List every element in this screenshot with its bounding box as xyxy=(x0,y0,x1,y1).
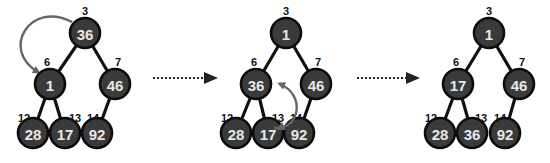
step-arrow-1 xyxy=(153,72,218,84)
heap-node: 46 xyxy=(301,69,331,99)
heap-node: 1 xyxy=(271,18,301,48)
index-label: 6 xyxy=(453,56,459,68)
heap-tree-3: 3 6 7 12 13 14 1 17 46 28 36 92 xyxy=(425,5,534,148)
arrow-right-icon xyxy=(406,72,420,84)
svg-text:1: 1 xyxy=(485,26,493,43)
heap-node: 28 xyxy=(18,118,48,148)
index-label: 3 xyxy=(486,5,492,17)
heap-node: 92 xyxy=(490,118,520,148)
heap-node: 28 xyxy=(425,118,455,148)
heap-node: 17 xyxy=(443,69,473,99)
index-label: 3 xyxy=(82,5,88,17)
heap-tree-1: 3 6 7 12 13 14 36 1 46 28 17 92 xyxy=(18,5,130,148)
svg-text:46: 46 xyxy=(511,77,528,94)
index-label: 3 xyxy=(283,5,289,17)
svg-text:1: 1 xyxy=(282,26,290,43)
svg-text:36: 36 xyxy=(77,26,94,43)
svg-text:28: 28 xyxy=(432,126,449,143)
arrow-right-icon xyxy=(204,72,218,84)
svg-text:46: 46 xyxy=(107,77,124,94)
svg-text:92: 92 xyxy=(291,126,308,143)
heap-node: 28 xyxy=(221,118,251,148)
svg-text:1: 1 xyxy=(46,77,54,94)
heap-node: 17 xyxy=(50,118,80,148)
index-label: 7 xyxy=(315,56,321,68)
svg-text:46: 46 xyxy=(308,77,325,94)
heap-node: 92 xyxy=(284,118,314,148)
svg-text:17: 17 xyxy=(57,126,74,143)
svg-text:36: 36 xyxy=(464,126,481,143)
svg-text:17: 17 xyxy=(450,77,467,94)
heap-node: 36 xyxy=(70,18,100,48)
heap-node: 36 xyxy=(241,69,271,99)
heap-node: 17 xyxy=(253,118,283,148)
index-label: 7 xyxy=(519,56,525,68)
heap-node: 36 xyxy=(457,118,487,148)
svg-text:92: 92 xyxy=(497,126,514,143)
heap-diagram: 3 6 7 12 13 14 36 1 46 28 17 92 3 6 7 12… xyxy=(0,0,550,163)
svg-text:28: 28 xyxy=(228,126,245,143)
heap-tree-2: 3 6 7 12 13 14 1 36 46 28 17 92 xyxy=(221,5,331,148)
index-label: 6 xyxy=(251,56,257,68)
index-label: 6 xyxy=(44,56,50,68)
index-label: 7 xyxy=(115,56,121,68)
heap-node: 1 xyxy=(474,18,504,48)
heap-node: 1 xyxy=(35,69,65,99)
svg-text:36: 36 xyxy=(248,77,265,94)
svg-text:92: 92 xyxy=(89,126,106,143)
heap-node: 46 xyxy=(504,69,534,99)
step-arrow-2 xyxy=(357,72,420,84)
svg-text:17: 17 xyxy=(260,126,277,143)
svg-text:28: 28 xyxy=(25,126,42,143)
heap-node: 92 xyxy=(82,118,112,148)
heap-node: 46 xyxy=(100,69,130,99)
